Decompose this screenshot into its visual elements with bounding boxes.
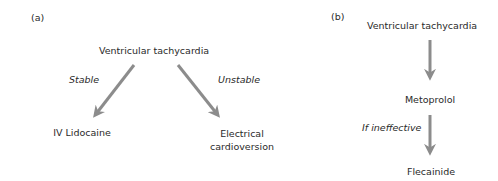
flecainide-node: Flecainide bbox=[407, 166, 455, 178]
panel-b-root-node: Ventricular tachycardia bbox=[367, 20, 477, 32]
stable-condition-label: Stable bbox=[69, 74, 99, 86]
electrical-node-line1: Electrical bbox=[220, 128, 264, 140]
cardioversion-node-line2: cardioversion bbox=[210, 141, 274, 153]
unstable-condition-label: Unstable bbox=[218, 74, 260, 86]
panel-a-label: (a) bbox=[31, 12, 44, 24]
metoprolol-node: Metoprolol bbox=[405, 94, 455, 106]
arrow-stable-icon bbox=[96, 65, 134, 114]
panel-a-root-node: Ventricular tachycardia bbox=[99, 45, 209, 57]
panel-b-label: (b) bbox=[331, 11, 344, 23]
if-ineffective-label: If ineffective bbox=[362, 122, 421, 134]
flowchart-figure: (a) Ventricular tachycardia Stable Unsta… bbox=[0, 0, 498, 181]
iv-lidocaine-node: IV Lidocaine bbox=[53, 127, 111, 139]
arrow-unstable-icon bbox=[178, 65, 217, 114]
